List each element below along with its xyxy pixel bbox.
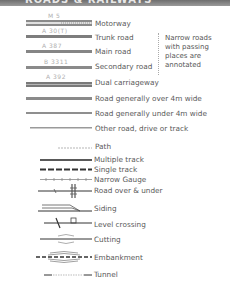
secondary-road-symbol-icon [26,66,92,69]
road-number: A 387 [42,42,62,49]
legend-label: Dual carriageway [95,78,159,87]
road-over-under-symbol-icon [38,184,92,198]
level-crossing-symbol-icon [44,217,92,229]
legend-label: Road over & under [94,186,163,195]
note-bracket [158,33,160,75]
motorway-symbol-icon [26,20,92,26]
narrow-roads-note: Narrow roads with passing places are ann… [165,34,225,70]
road-over-4m-symbol-icon [26,97,92,100]
section-title: ROADS & RAILWAYS [25,0,152,5]
section-header: ROADS & RAILWAYS [0,0,230,6]
legend-label: Cutting [94,235,121,244]
legend-label: Single track [94,165,137,174]
legend-label: Level crossing [94,220,146,229]
road-under-4m-symbol-icon [26,112,92,114]
path-symbol-icon [58,147,92,149]
legend-label: Siding [94,204,117,213]
legend-label: Main road [95,47,131,56]
narrow-gauge-symbol-icon [40,177,92,182]
legend-label: Multiple track [94,155,144,164]
road-number: M 5 [48,12,60,19]
main-road-symbol-icon [26,50,92,53]
road-number: B 3311 [44,58,68,65]
trunk-road-symbol-icon [26,35,92,38]
cutting-symbol-icon [40,233,92,245]
road-number: A 392 [46,73,66,80]
legend-label: Road generally over 4m wide [95,94,202,103]
tunnel-symbol-icon [44,273,92,277]
legend-label: Narrow Gauge [94,175,146,184]
dual-carriageway-symbol-icon [26,82,92,87]
road-number: A 30(T) [42,27,68,34]
embankment-symbol-icon [36,250,92,264]
legend-label: Path [95,142,111,151]
legend-label: Other road, drive or track [95,124,188,133]
multiple-track-symbol-icon [40,159,92,161]
legend-label: Motorway [95,19,131,28]
legend-label: Secondary road [95,62,152,71]
legend-label: Embankment [94,253,143,262]
legend-label: Tunnel [94,270,118,279]
siding-symbol-icon [38,203,92,213]
legend-label: Road generally under 4m wide [95,109,207,118]
other-road-symbol-icon [30,127,92,129]
legend-label: Trunk road [95,33,134,42]
single-track-symbol-icon [40,168,92,171]
